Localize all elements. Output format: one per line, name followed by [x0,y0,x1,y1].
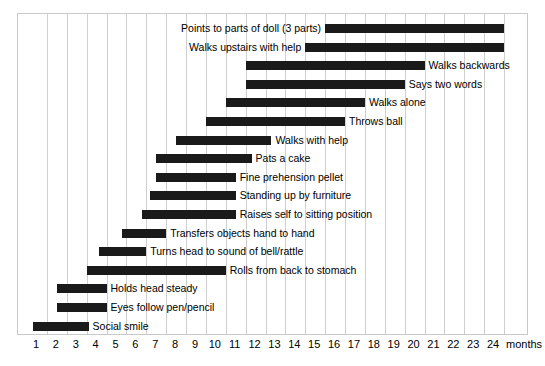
milestone-bar [122,229,166,238]
chart-row: Says two words [18,76,527,93]
bar-series: Points to parts of doll (3 parts)Walks u… [18,14,527,334]
chart-row: Rolls from back to stomach [18,262,527,279]
x-axis-unit-label: months [506,338,542,350]
milestone-label: Standing up by furniture [240,188,352,202]
chart-row: Fine prehension pellet [18,169,527,186]
chart-row: Points to parts of doll (3 parts) [18,20,527,37]
milestone-label: Points to parts of doll (3 parts) [181,21,321,35]
milestone-bar [99,247,147,256]
chart-row: Throws ball [18,113,527,130]
chart-row: Pats a cake [18,150,527,167]
milestone-bar [57,303,107,312]
plot-area: Points to parts of doll (3 parts)Walks u… [17,13,528,335]
milestone-label: Walks with help [275,133,348,147]
milestone-label: Walks upstairs with help [189,40,301,54]
chart-row: Walks with help [18,132,527,149]
chart-row: Walks upstairs with help [18,39,527,56]
milestone-label: Holds head steady [111,281,198,295]
chart-row: Transfers objects hand to hand [18,225,527,242]
milestone-bar [246,80,405,89]
milestone-bar [87,266,226,275]
milestone-label: Transfers objects hand to hand [170,226,314,240]
milestone-bar [176,136,271,145]
chart-row: Holds head steady [18,280,527,297]
milestone-label: Pats a cake [256,151,311,165]
milestone-label: Says two words [409,77,483,91]
chart-row: Walks backwards [18,57,527,74]
milestone-bar [305,43,504,52]
milestone-label: Eyes follow pen/pencil [111,300,215,314]
chart-row: Raises self to sitting position [18,206,527,223]
x-axis: 123456789101112131415161718192021222324m… [17,336,528,362]
milestone-label: Turns head to sound of bell/rattle [150,244,303,258]
chart-row: Eyes follow pen/pencil [18,299,527,316]
milestone-label: Throws ball [349,114,403,128]
milestone-bar [33,322,89,331]
chart-row: Social smile [18,318,527,335]
milestone-bar [150,191,235,200]
x-tick-label-24: 24 [479,338,507,350]
chart-row: Walks alone [18,94,527,111]
milestone-bar [206,117,345,126]
milestone-bar [226,98,365,107]
milestone-bar [156,173,236,182]
milestone-bar [156,154,251,163]
milestone-label: Walks alone [369,95,426,109]
milestone-bar [57,284,107,293]
milestone-bar [325,24,504,33]
milestone-bar [246,61,425,70]
milestone-label: Social smile [93,319,149,333]
milestone-label: Walks backwards [429,58,510,72]
milestone-label: Raises self to sitting position [240,207,372,221]
milestone-bar [142,210,235,219]
chart-row: Turns head to sound of bell/rattle [18,243,527,260]
chart-row: Standing up by furniture [18,187,527,204]
milestones-chart: Points to parts of doll (3 parts)Walks u… [0,0,545,366]
milestone-label: Fine prehension pellet [240,170,343,184]
milestone-label: Rolls from back to stomach [230,263,357,277]
